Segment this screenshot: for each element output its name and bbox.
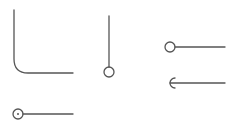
elbow-connector-icon	[14, 10, 73, 73]
diagram-canvas	[0, 0, 242, 136]
vertical-pin-connector-icon	[104, 16, 114, 77]
ball-connector-icon	[165, 42, 225, 52]
connector-symbols	[0, 0, 242, 136]
ball-dot-connector-icon	[13, 109, 73, 119]
socket-connector-icon	[170, 78, 225, 88]
